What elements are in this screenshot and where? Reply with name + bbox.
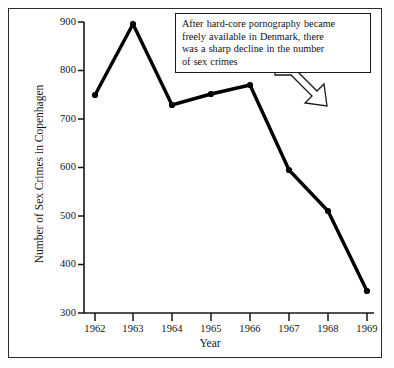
x-tick-label-1963: 1963 — [112, 323, 154, 334]
data-point-1963 — [130, 21, 136, 27]
y-tick-label-900: 900 — [50, 16, 76, 27]
x-tick-label-1967: 1967 — [268, 323, 310, 334]
y-tick-label-700: 700 — [50, 113, 76, 124]
annotation-line-3: was a sharp decline in the number — [182, 43, 324, 54]
annotation-callout-box: After hard-core pornography became freel… — [175, 13, 371, 73]
y-tick-label-500: 500 — [50, 210, 76, 221]
x-tick-label-1965: 1965 — [190, 323, 232, 334]
data-point-1969 — [364, 288, 370, 294]
annotation-line-4: of sex crimes — [182, 56, 238, 67]
y-axis-ticks — [78, 22, 84, 313]
annotation-arrow-icon — [275, 70, 327, 106]
y-tick-label-800: 800 — [50, 64, 76, 75]
data-point-1968 — [325, 208, 331, 214]
figure-container: 900 800 700 600 500 400 300 1962 1963 19… — [0, 0, 394, 368]
data-point-1966 — [247, 82, 253, 88]
data-point-1967 — [286, 167, 292, 173]
x-tick-label-1968: 1968 — [307, 323, 349, 334]
annotation-line-2: freely available in Denmark, there — [182, 31, 324, 42]
x-tick-label-1966: 1966 — [229, 323, 271, 334]
y-tick-label-300: 300 — [50, 307, 76, 318]
x-tick-label-1969: 1969 — [346, 323, 388, 334]
data-point-1965 — [208, 91, 214, 97]
x-tick-label-1964: 1964 — [151, 323, 193, 334]
annotation-text: After hard-core pornography became freel… — [182, 18, 365, 68]
x-axis-title: Year — [60, 337, 360, 349]
data-point-1964 — [169, 102, 175, 108]
x-axis-ticks — [95, 313, 367, 321]
x-tick-label-1962: 1962 — [74, 323, 116, 334]
annotation-line-1: After hard-core pornography became — [182, 18, 335, 29]
y-tick-label-400: 400 — [50, 258, 76, 269]
data-point-1962 — [92, 92, 98, 98]
y-axis-title: Number of Sex Crimes in Copenhagen — [33, 69, 45, 279]
y-tick-label-600: 600 — [50, 161, 76, 172]
